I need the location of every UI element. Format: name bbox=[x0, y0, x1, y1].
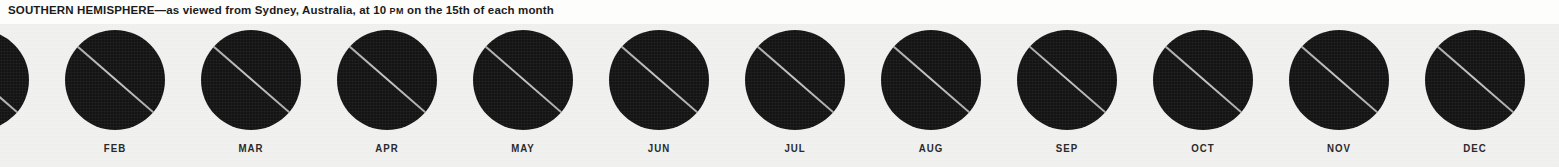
caption-bar: SOUTHERN HEMISPHERE—as viewed from Sydne… bbox=[0, 0, 1559, 24]
month-label-sep: SEP bbox=[1007, 142, 1127, 154]
sky-disk-may bbox=[473, 30, 573, 130]
galactic-band-icon bbox=[1017, 30, 1117, 130]
sky-disk-jul bbox=[745, 30, 845, 130]
month-label-may: MAY bbox=[463, 142, 583, 154]
caption-meridiem-smallcaps: PM bbox=[390, 6, 404, 16]
monthly-sky-chart-field: JAN FEB MAR APR MAY bbox=[0, 24, 1559, 167]
month-label-nov: NOV bbox=[1279, 142, 1399, 154]
month-chart-sep[interactable]: SEP bbox=[999, 24, 1135, 167]
galactic-band-icon bbox=[201, 30, 301, 130]
month-label-oct: OCT bbox=[1143, 142, 1263, 154]
sky-disk-feb bbox=[65, 30, 165, 130]
month-label-jun: JUN bbox=[599, 142, 719, 154]
month-label-feb: FEB bbox=[55, 142, 175, 154]
month-label-jan: JAN bbox=[0, 142, 39, 154]
month-chart-nov[interactable]: NOV bbox=[1271, 24, 1407, 167]
month-chart-aug[interactable]: AUG bbox=[863, 24, 999, 167]
galactic-band-icon bbox=[881, 30, 981, 130]
month-label-dec: DEC bbox=[1415, 142, 1535, 154]
sky-disk-apr bbox=[337, 30, 437, 130]
galactic-band-icon bbox=[65, 30, 165, 130]
month-chart-mar[interactable]: MAR bbox=[183, 24, 319, 167]
sky-disk-oct bbox=[1153, 30, 1253, 130]
sky-disk-sep bbox=[1017, 30, 1117, 130]
month-chart-jun[interactable]: JUN bbox=[591, 24, 727, 167]
month-chart-jan[interactable]: JAN bbox=[0, 24, 47, 167]
sky-disk-aug bbox=[881, 30, 981, 130]
month-chart-jul[interactable]: JUL bbox=[727, 24, 863, 167]
sky-disk-nov bbox=[1289, 30, 1389, 130]
sky-disk-jun bbox=[609, 30, 709, 130]
month-chart-apr[interactable]: APR bbox=[319, 24, 455, 167]
galactic-band-icon bbox=[609, 30, 709, 130]
galactic-band-icon bbox=[337, 30, 437, 130]
galactic-band-icon bbox=[1153, 30, 1253, 130]
galactic-band-icon bbox=[745, 30, 845, 130]
caption-tail-text: on the 15th of each month bbox=[404, 4, 554, 16]
month-chart-feb[interactable]: FEB bbox=[47, 24, 183, 167]
month-label-mar: MAR bbox=[191, 142, 311, 154]
month-label-aug: AUG bbox=[871, 142, 991, 154]
month-label-apr: APR bbox=[327, 142, 447, 154]
galactic-band-icon bbox=[473, 30, 573, 130]
month-chart-may[interactable]: MAY bbox=[455, 24, 591, 167]
sky-disk-jan bbox=[0, 30, 29, 130]
month-chart-dec[interactable]: DEC bbox=[1407, 24, 1543, 167]
month-label-jul: JUL bbox=[735, 142, 855, 154]
sky-disk-dec bbox=[1425, 30, 1525, 130]
galactic-band-icon bbox=[0, 30, 29, 130]
month-chart-oct[interactable]: OCT bbox=[1135, 24, 1271, 167]
southern-hemisphere-star-chart-strip: SOUTHERN HEMISPHERE—as viewed from Sydne… bbox=[0, 0, 1559, 167]
galactic-band-icon bbox=[1425, 30, 1525, 130]
caption-text: SOUTHERN HEMISPHERE—as viewed from Sydne… bbox=[8, 3, 554, 18]
sky-disk-mar bbox=[201, 30, 301, 130]
caption-lead-text: SOUTHERN HEMISPHERE—as viewed from Sydne… bbox=[8, 4, 390, 16]
galactic-band-icon bbox=[1289, 30, 1389, 130]
